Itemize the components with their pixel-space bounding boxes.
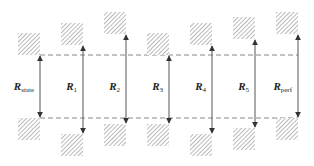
upper-block-r3 [147, 33, 169, 55]
lower-block-r2 [104, 124, 126, 146]
range-label-r3: R3 [151, 80, 163, 94]
label-subscript: state [21, 86, 34, 94]
column-state: Rstate [13, 33, 40, 140]
label-main: R [65, 80, 73, 92]
upper-block-perf [276, 12, 298, 34]
upper-block-r5 [233, 17, 255, 39]
range-label-state: Rstate [13, 80, 34, 94]
label-subscript: 4 [203, 86, 207, 94]
upper-block-state [18, 33, 40, 55]
label-main: R [108, 80, 116, 92]
column-r1: R1 [61, 23, 83, 156]
label-subscript: 3 [160, 86, 164, 94]
label-main: R [237, 80, 245, 92]
column-perf: Rperf [272, 12, 298, 140]
range-label-r4: R4 [194, 80, 206, 94]
column-r2: R2 [104, 12, 126, 146]
upper-block-r2 [104, 12, 126, 34]
range-label-r2: R2 [108, 80, 120, 94]
label-main: R [13, 80, 21, 92]
label-subscript: 2 [117, 86, 121, 94]
lower-block-r1 [61, 134, 83, 156]
label-main: R [151, 80, 159, 92]
range-label-r5: R5 [237, 80, 249, 94]
lower-block-state [18, 118, 40, 140]
lower-block-r4 [190, 134, 212, 156]
lower-block-r3 [147, 124, 169, 146]
column-r5: R5 [233, 17, 255, 150]
lower-block-perf [276, 118, 298, 140]
lower-block-r5 [233, 128, 255, 150]
range-label-perf: Rperf [272, 80, 292, 94]
label-main: R [194, 80, 202, 92]
column-r3: R3 [147, 33, 169, 146]
label-subscript: 5 [246, 86, 250, 94]
label-subscript: 1 [74, 86, 78, 94]
tolerance-diagram: RstateR1R2R3R4R5Rperf [0, 0, 314, 166]
label-subscript: perf [281, 86, 293, 94]
range-label-r1: R1 [65, 80, 77, 94]
label-main: R [272, 80, 280, 92]
upper-block-r4 [190, 23, 212, 45]
upper-block-r1 [61, 23, 83, 45]
column-r4: R4 [190, 23, 212, 156]
